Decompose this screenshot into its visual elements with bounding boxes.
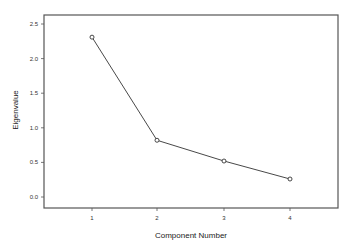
y-tick-label: 1.0 [30,125,39,131]
data-point-marker [90,35,94,39]
y-tick-label: 2.5 [30,21,39,27]
y-tick-label: 1.5 [30,90,39,96]
x-tick-label: 4 [288,215,292,221]
data-point-marker [155,138,159,142]
plot-frame [44,15,338,208]
y-tick-label: 0.5 [30,159,39,165]
y-tick-label: 0.0 [30,194,39,200]
data-point-marker [222,159,226,163]
x-tick-label: 1 [90,215,94,221]
x-axis: 1234 [90,208,292,221]
y-tick-label: 2.0 [30,56,39,62]
x-axis-label: Component Number [155,231,227,240]
x-tick-label: 3 [222,215,226,221]
data-point-marker [288,177,292,181]
scree-plot: 0.00.51.01.52.02.5 1234 Eigenvalue Compo… [0,0,355,248]
y-axis: 0.00.51.01.52.02.5 [30,21,44,200]
x-tick-label: 2 [155,215,159,221]
y-axis-label: Eigenvalue [11,90,20,130]
